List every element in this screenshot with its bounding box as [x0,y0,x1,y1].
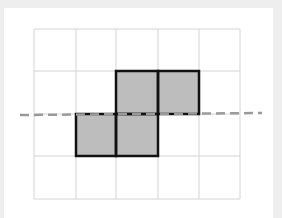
shaded-cell [116,114,158,156]
shaded-cell [158,71,199,114]
shaded-cell [116,71,158,114]
shaded-cell [76,114,116,156]
grid-diagram [0,0,282,218]
